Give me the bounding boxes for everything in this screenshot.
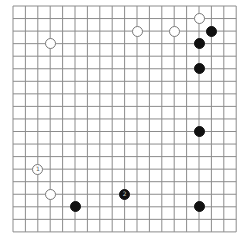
black-stone (206, 26, 217, 37)
move-number-label: 1 (36, 166, 40, 172)
move-number-label: 2 (123, 191, 127, 197)
go-board[interactable]: 12 (0, 0, 245, 245)
black-stone: 2 (119, 189, 130, 200)
white-stone: 1 (32, 164, 43, 175)
board-grid (0, 0, 245, 245)
white-stone (45, 38, 56, 49)
black-stone (70, 201, 81, 212)
black-stone (194, 63, 205, 74)
white-stone (169, 26, 180, 37)
black-stone (194, 201, 205, 212)
white-stone (45, 189, 56, 200)
black-stone (194, 126, 205, 137)
white-stone (194, 13, 205, 24)
white-stone (132, 26, 143, 37)
black-stone (194, 38, 205, 49)
